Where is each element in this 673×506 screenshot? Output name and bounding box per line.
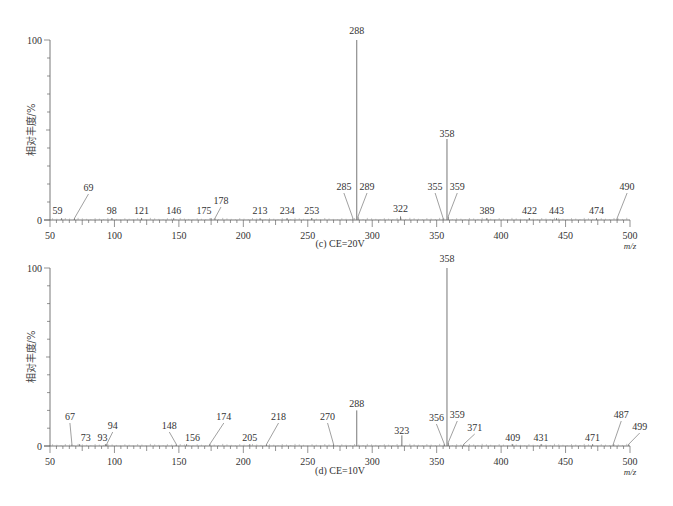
peak-label: 69 <box>83 182 93 193</box>
x-tick-label: 150 <box>171 230 186 241</box>
x-axis-label: m/z <box>624 241 637 251</box>
peak-leader-line <box>344 193 353 218</box>
peak-leader-line <box>629 433 640 444</box>
peak-label: 356 <box>429 412 444 423</box>
peak-label: 98 <box>107 205 117 216</box>
peak-label: 359 <box>450 409 465 420</box>
y-axis-label: 相对丰度/% <box>25 331 37 384</box>
x-tick-label: 150 <box>171 456 186 467</box>
x-tick-label: 200 <box>236 230 251 241</box>
x-tick-label: 250 <box>300 456 315 467</box>
peak-leader-line <box>210 423 224 444</box>
peak-label: 253 <box>304 205 319 216</box>
peak-label: 270 <box>320 411 335 422</box>
peak-leader-line <box>267 423 279 444</box>
peak-label: 322 <box>393 203 408 214</box>
x-tick-label: 350 <box>429 230 444 241</box>
peak-label: 355 <box>428 181 443 192</box>
x-tick-label: 500 <box>623 456 638 467</box>
peak-label: 499 <box>632 421 647 432</box>
x-tick-label: 200 <box>236 456 251 467</box>
spectrum-panel-c: 010050100150200250300350400450500相对丰度/%m… <box>25 25 638 251</box>
panel-caption: (d) CE=10V <box>315 465 366 477</box>
spectrum-panel-d: 010050100150200250300350400450500相对丰度/%m… <box>25 253 647 477</box>
peak-label: 218 <box>271 411 286 422</box>
peak-leader-line <box>74 194 88 218</box>
peak-label: 358 <box>439 128 454 139</box>
x-tick-label: 100 <box>107 456 122 467</box>
x-tick-label: 250 <box>300 230 315 241</box>
peak-leader-line <box>328 423 334 444</box>
peak-leader-line <box>448 193 457 216</box>
mass-spectra-figure: 010050100150200250300350400450500相对丰度/%m… <box>0 0 673 506</box>
peak-label: 474 <box>589 205 604 216</box>
peak-label: 487 <box>614 409 629 420</box>
peak-leader-line <box>215 207 221 218</box>
x-axis-label: m/z <box>624 467 637 477</box>
peak-label: 67 <box>65 411 75 422</box>
x-tick-label: 450 <box>558 230 573 241</box>
x-tick-label: 50 <box>45 230 55 241</box>
peak-label: 285 <box>336 181 351 192</box>
peak-leader-line <box>436 424 444 444</box>
peak-label: 358 <box>439 253 454 264</box>
peak-leader-line <box>169 432 176 444</box>
x-tick-label: 350 <box>429 456 444 467</box>
x-tick-label: 300 <box>365 456 380 467</box>
peak-leader-line <box>448 421 457 442</box>
x-tick-label: 300 <box>365 230 380 241</box>
peak-label: 471 <box>585 432 600 443</box>
peak-label: 443 <box>549 205 564 216</box>
peak-label: 59 <box>53 205 63 216</box>
peak-label: 288 <box>349 398 364 409</box>
peak-leader-line <box>358 193 367 216</box>
peak-label: 323 <box>394 425 409 436</box>
peak-leader-line <box>464 434 475 444</box>
peak-label: 359 <box>450 181 465 192</box>
peak-label: 288 <box>349 25 364 36</box>
x-tick-label: 450 <box>558 456 573 467</box>
peak-leader-line <box>435 193 443 218</box>
peak-label: 148 <box>162 420 177 431</box>
peak-label: 422 <box>522 205 537 216</box>
peak-label: 94 <box>108 420 118 431</box>
peak-label: 178 <box>213 195 228 206</box>
peak-label: 409 <box>505 432 520 443</box>
peak-leader-line <box>107 432 113 444</box>
peak-label: 213 <box>253 205 268 216</box>
peak-label: 289 <box>360 181 375 192</box>
x-tick-label: 500 <box>623 230 638 241</box>
x-tick-label: 400 <box>494 456 509 467</box>
peak-label: 234 <box>280 205 295 216</box>
x-tick-label: 50 <box>45 456 55 467</box>
peak-label: 73 <box>81 432 91 443</box>
peak-leader-line <box>617 193 627 218</box>
peak-label: 389 <box>479 205 494 216</box>
peak-label: 431 <box>534 432 549 443</box>
y-tick-label: 100 <box>27 263 42 274</box>
peak-leader-line <box>70 423 72 444</box>
y-axis-label: 相对丰度/% <box>25 104 37 157</box>
y-tick-label: 0 <box>37 441 42 452</box>
peak-label: 205 <box>242 432 257 443</box>
panel-caption: (c) CE=20V <box>315 238 365 250</box>
y-tick-label: 0 <box>37 215 42 226</box>
peak-label: 93 <box>97 432 107 443</box>
peak-label: 156 <box>185 432 200 443</box>
peak-label: 121 <box>134 205 149 216</box>
peak-label: 490 <box>620 181 635 192</box>
peak-label: 146 <box>166 205 181 216</box>
peak-label: 175 <box>197 205 212 216</box>
x-tick-label: 100 <box>107 230 122 241</box>
peak-leader-line <box>613 421 621 444</box>
x-tick-label: 400 <box>494 230 509 241</box>
peak-label: 174 <box>216 411 231 422</box>
y-tick-label: 100 <box>27 35 42 46</box>
peak-label: 371 <box>467 422 482 433</box>
